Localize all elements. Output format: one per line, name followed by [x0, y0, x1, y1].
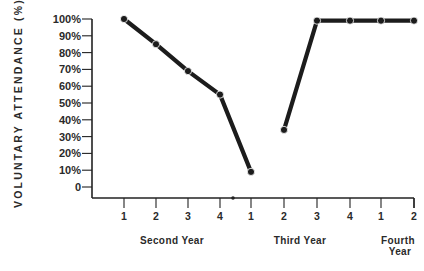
data-point — [184, 67, 191, 74]
x-tick-label: 2 — [411, 210, 417, 222]
data-point — [120, 15, 127, 22]
x-tick-label: 1 — [378, 210, 384, 222]
y-tick-label: 20% — [59, 147, 81, 159]
y-tick-label: 50% — [59, 97, 81, 109]
x-tick-label: 2 — [153, 210, 159, 222]
x-tick-label: 4 — [347, 210, 353, 222]
x-tick-label: 2 — [281, 210, 287, 222]
group-label-fourth-year: Fourth — [381, 235, 415, 246]
group-label-second-year: Second Year — [140, 235, 204, 246]
y-tick-label: 30% — [59, 131, 81, 143]
series-line-segment — [220, 95, 251, 172]
group-label-third-year: Third Year — [274, 235, 327, 246]
series-line-segment — [188, 71, 220, 95]
y-axis-title: VOLUNTARY ATTENDANCE (%) — [12, 0, 24, 208]
year-group-labels: Second YearThird YearFourthYear — [140, 235, 415, 257]
attendance-line-chart: VOLUNTARY ATTENDANCE (%) 010%20%30%40%50… — [0, 0, 424, 271]
y-tick-label: 60% — [59, 80, 81, 92]
data-point — [346, 17, 353, 24]
y-tick-label: 90% — [59, 30, 81, 42]
y-axis-label: VOLUNTARY ATTENDANCE (%) — [12, 0, 24, 208]
data-point — [280, 126, 287, 133]
y-tick-label: 0 — [75, 181, 81, 193]
series-line-segment — [284, 21, 317, 130]
data-point — [377, 17, 384, 24]
x-tick-label: 3 — [314, 210, 320, 222]
group-label-fourth-year-line2: Year — [389, 246, 412, 257]
data-point — [152, 41, 159, 48]
x-tick-label: 4 — [217, 210, 223, 222]
y-tick-label: 80% — [59, 47, 81, 59]
x-tick-label: 1 — [121, 210, 127, 222]
data-series — [120, 15, 417, 175]
data-point — [216, 91, 223, 98]
x-tick-label: 3 — [185, 210, 191, 222]
y-tick-label: 70% — [59, 63, 81, 75]
y-axis: 010%20%30%40%50%60%70%80%90%100% — [53, 13, 92, 198]
y-tick-label: 40% — [59, 114, 81, 126]
data-point — [247, 168, 254, 175]
y-tick-label: 10% — [59, 164, 81, 176]
x-axis: 1234123412 — [92, 196, 417, 222]
data-point — [410, 17, 417, 24]
series-line-segment — [124, 19, 156, 44]
x-tick-label: 1 — [248, 210, 254, 222]
series-line-segment — [156, 44, 188, 71]
year-break-marker — [231, 196, 235, 200]
data-point — [313, 17, 320, 24]
y-tick-label: 100% — [53, 13, 81, 25]
